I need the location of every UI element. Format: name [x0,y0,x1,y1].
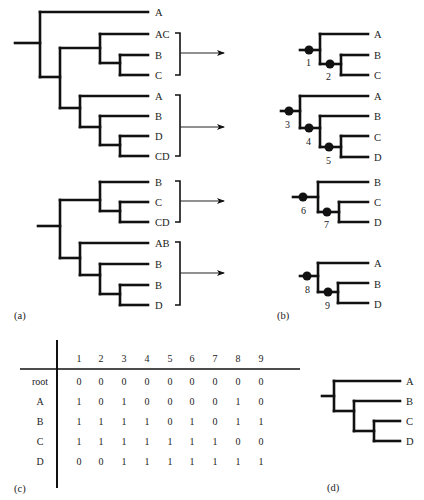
node-marker-icon [303,272,312,281]
column-header: 9 [259,353,264,364]
table-cell: 1 [213,456,218,467]
table-cell: 1 [122,396,127,407]
table-cell: 1 [77,396,82,407]
column-header: 2 [99,353,104,364]
table-cell: 1 [145,456,150,467]
row-label: root [32,376,48,387]
table-cell: 1 [122,416,127,427]
bracket [175,242,180,305]
table-cell: 1 [99,436,104,447]
node-marker-icon [323,208,332,217]
leaf-label: AC [155,29,170,40]
leaf-label: C [374,132,381,143]
row-label: B [37,416,44,427]
table-cell: 1 [190,436,195,447]
leaf-label: D [155,300,163,311]
leaf-label: B [374,177,381,188]
leaf-label: AB [155,238,170,249]
leaf-label: C [374,197,381,208]
leaf-label: D [374,299,382,310]
column-header: 6 [190,353,195,364]
bracket [175,181,180,222]
row-label: C [37,436,44,447]
node-marker-icon [324,288,333,297]
leaf-label: B [374,279,381,290]
table-cell: 1 [190,456,195,467]
table-cell: 0 [190,376,195,387]
leaf-label: B [155,177,162,188]
leaf-label: C [374,70,381,81]
node-number: 9 [325,300,330,311]
leaf-label: D [374,217,382,228]
table-cell: 0 [259,436,264,447]
table-cell: 0 [145,396,150,407]
node-number: 7 [324,219,329,230]
column-header: 8 [236,353,241,364]
bracket [175,33,180,75]
table-row: D001111111 [36,456,263,467]
panel-a-tree-1: A AC B C A B D CD [15,7,224,162]
table-cell: 0 [122,376,127,387]
panel-label-a: (a) [14,310,26,322]
node-marker-icon [305,46,314,55]
leaf-label: D [374,152,382,163]
leaf-label: A [155,91,163,102]
table-cell: 0 [77,456,82,467]
table-body: root000000000A101000010B111101011C111111… [32,376,264,467]
column-header: 1 [77,353,82,364]
table-cell: 0 [168,376,173,387]
panel-b: 1 2 A B C 3 4 5 A B C D 6 [277,29,382,322]
leaf-label: D [406,436,414,447]
leaf-label: A [155,7,163,18]
column-header: 4 [145,353,150,364]
leaf-label: C [155,70,162,81]
leaf-label: A [406,376,414,387]
leaf-label: A [374,91,382,102]
leaf-label: C [155,197,162,208]
node-marker-icon [299,193,308,202]
node-number: 8 [305,284,310,295]
table-cell: 1 [213,436,218,447]
table-cell: 1 [190,416,195,427]
table-cell: 1 [259,416,264,427]
table-row: C111111100 [37,436,264,447]
leaf-label: A [374,258,382,269]
table-cell: 0 [99,396,104,407]
node-number: 2 [326,71,331,82]
table-cell: 0 [145,376,150,387]
table-cell: 0 [213,376,218,387]
table-cell: 0 [259,396,264,407]
panel-d-tree: A B C D (d) [322,376,414,494]
leaf-label: B [155,259,162,270]
panel-label-d: (d) [327,482,340,494]
table-cell: 0 [213,416,218,427]
row-label: A [36,396,44,407]
leaf-label: CD [155,217,170,228]
node-number: 4 [306,136,311,147]
table-cell: 0 [236,436,241,447]
node-number: 1 [306,57,311,68]
leaf-label: B [406,396,413,407]
node-marker-icon [305,124,314,133]
table-cell: 1 [99,416,104,427]
leaf-label: B [155,50,162,61]
leaf-label: C [406,416,413,427]
table-cell: 1 [77,416,82,427]
table-header: 1 2 3 4 5 6 7 8 9 [77,353,264,364]
leaf-label: B [155,111,162,122]
table-cell: 1 [236,396,241,407]
phylogeny-figure: A AC B C A B D CD B C CD A [0,0,424,500]
table-cell: 0 [213,396,218,407]
table-cell: 1 [236,456,241,467]
column-header: 7 [213,353,218,364]
leaf-label: B [374,50,381,61]
leaf-label: A [374,29,382,40]
table-cell: 0 [99,456,104,467]
table-row: A101000010 [36,396,263,407]
panel-c-table: 1 2 3 4 5 6 7 8 9 root000000000A10100001… [14,340,300,495]
column-header: 3 [122,353,127,364]
node-marker-icon [285,107,294,116]
bracket [175,95,180,156]
table-cell: 1 [236,416,241,427]
table-cell: 1 [168,436,173,447]
